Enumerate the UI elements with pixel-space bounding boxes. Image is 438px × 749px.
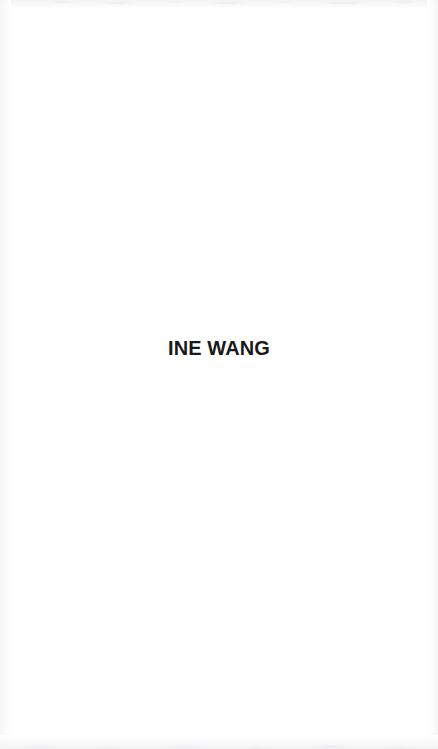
scan-edge-shadow-right [427,0,438,749]
scan-edge-shadow-top [0,0,438,9]
page-heading: INE WANG [168,336,270,360]
scan-edge-shadow-bottom [0,735,438,749]
scan-edge-shadow-left [0,0,11,749]
scanned-page: INE WANG [0,0,438,749]
page-heading-line: INE WANG [0,336,438,362]
scan-noise-specks-top [0,0,438,7]
scan-noise-specks-bottom [0,739,438,749]
